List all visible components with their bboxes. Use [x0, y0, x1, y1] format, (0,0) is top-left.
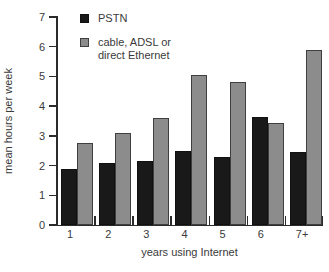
bar-broadband	[153, 118, 169, 225]
x-axis-tick-label: 1	[56, 228, 94, 244]
x-axis-title: years using Internet	[56, 246, 323, 258]
x-axis-tick-label: 4	[170, 228, 208, 244]
y-axis-tick-mark	[49, 105, 56, 107]
y-axis-tick-mark	[49, 165, 56, 167]
y-axis-tick-label: 7	[39, 12, 45, 23]
gray-square-swatch-icon	[80, 38, 89, 47]
y-axis-tick-mark	[49, 135, 56, 137]
bar-group	[285, 17, 323, 225]
x-axis-labels: 1234567+	[56, 228, 323, 244]
bar-pstn	[99, 163, 115, 225]
y-axis-tick-label: 0	[39, 220, 45, 231]
bar-group	[247, 17, 285, 225]
bar-pstn	[214, 157, 230, 225]
y-axis-tick-label: 2	[39, 160, 45, 171]
bar-broadband	[115, 133, 131, 225]
x-axis-tick-mark	[247, 216, 249, 225]
bar-pstn	[61, 169, 77, 225]
x-axis-tick-mark	[56, 216, 58, 225]
y-axis-tick-mark	[49, 46, 56, 48]
bar-pstn	[290, 152, 306, 225]
y-axis-tick-mark	[49, 195, 56, 197]
x-axis-tick-mark	[285, 216, 287, 225]
y-axis-title: mean hours per week	[2, 68, 14, 174]
x-axis-tick-mark	[94, 216, 96, 225]
x-axis-tick-label: 7+	[285, 228, 323, 244]
bar-pstn	[252, 117, 268, 225]
x-axis-tick-mark	[322, 216, 324, 225]
bar-broadband	[191, 75, 207, 225]
x-axis-tick-label: 5	[209, 228, 247, 244]
y-axis-tick-label: 1	[39, 190, 45, 201]
y-axis-tick-label: 3	[39, 130, 45, 141]
x-axis-tick-label: 3	[132, 228, 170, 244]
x-axis-tick-mark	[132, 216, 134, 225]
x-axis-tick-label: 2	[94, 228, 132, 244]
black-square-swatch-icon	[80, 14, 89, 23]
bar-chart: mean hours per week 01234567 1234567+ ye…	[0, 0, 329, 272]
legend-item-broadband: cable, ADSL or direct Ethernet	[80, 36, 171, 62]
legend-item-pstn: PSTN	[80, 12, 171, 25]
legend-label-pstn: PSTN	[98, 12, 127, 25]
x-axis-tick-mark	[209, 216, 211, 225]
x-axis-tick-mark	[170, 216, 172, 225]
y-axis-tick-label: 4	[39, 101, 45, 112]
y-axis-tick-mark	[49, 16, 56, 18]
bar-pstn	[137, 161, 153, 225]
y-axis-tick-mark	[49, 224, 56, 226]
y-axis-title-container: mean hours per week	[10, 17, 24, 225]
bar-group	[170, 17, 208, 225]
bar-pstn	[175, 151, 191, 225]
x-axis-tick-label: 6	[247, 228, 285, 244]
legend-label-broadband: cable, ADSL or direct Ethernet	[98, 36, 171, 62]
bar-broadband	[306, 50, 322, 225]
bar-broadband	[268, 123, 284, 226]
y-axis-tick-label: 6	[39, 41, 45, 52]
bar-broadband	[230, 82, 246, 225]
y-axis-tick-label: 5	[39, 71, 45, 82]
legend: PSTN cable, ADSL or direct Ethernet	[80, 12, 171, 73]
bar-broadband	[77, 143, 93, 225]
bar-group	[209, 17, 247, 225]
y-axis-tick-mark	[49, 76, 56, 78]
